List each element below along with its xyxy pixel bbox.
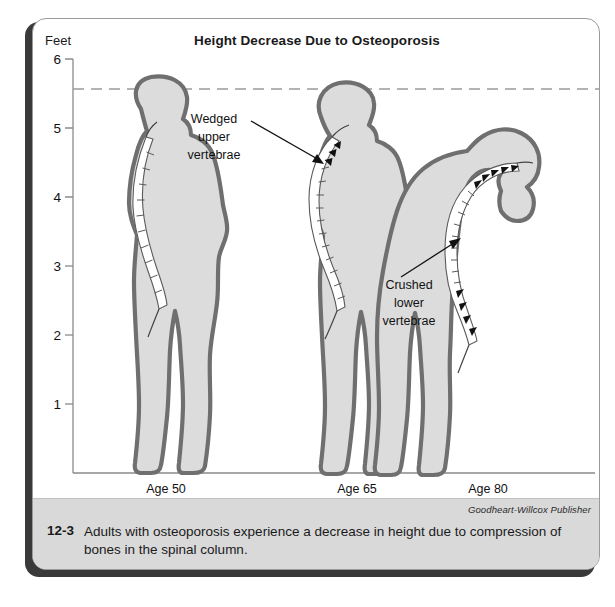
y-tick-5: 5 <box>53 121 61 136</box>
annotation-1-line-2: upper <box>198 130 230 144</box>
chart-area: Feet Height Decrease Due to Osteoporosis… <box>33 19 600 501</box>
y-tick-3: 3 <box>53 259 61 274</box>
figure-3-age-label: Age 80 <box>468 482 508 496</box>
figure-2-age-label: Age 65 <box>337 482 377 496</box>
figure-root: Feet Height Decrease Due to Osteoporosis… <box>0 0 615 607</box>
publisher-credit: Goodheart-Willcox Publisher <box>468 504 591 515</box>
y-axis <box>65 59 73 473</box>
annotation-1-line-3: vertebrae <box>188 148 241 162</box>
caption-row: 12-3 Adults with osteoporosis experience… <box>47 523 587 559</box>
annotation-1-leader-line <box>251 121 321 161</box>
annotation-2-line-1: Crushed <box>385 278 432 292</box>
y-tick-1: 1 <box>53 397 61 412</box>
y-tick-2: 2 <box>53 328 61 343</box>
spine-bottom-tail-age-80 <box>458 345 469 373</box>
y-tick-6: 6 <box>53 52 61 67</box>
figure-number: 12-3 <box>47 523 74 559</box>
annotation-1-line-1: Wedged <box>191 112 237 126</box>
y-axis-tick-labels: 6 5 4 3 2 1 <box>53 52 61 412</box>
figure-1-age-label: Age 50 <box>146 482 186 496</box>
annotation-2-line-3: vertebrae <box>383 314 436 328</box>
annotation-2-line-2: lower <box>394 296 424 310</box>
figure-caption-text: Adults with osteoporosis experience a de… <box>84 523 587 559</box>
annotation-wedged-upper-vertebrae: Wedged upper vertebrae <box>188 112 324 164</box>
y-tick-4: 4 <box>53 190 61 205</box>
caption-band: Goodheart-Willcox Publisher 12-3 Adults … <box>33 498 600 569</box>
figure-card: Feet Height Decrease Due to Osteoporosis… <box>32 18 600 570</box>
osteoporosis-plot: 6 5 4 3 2 1 <box>33 19 600 501</box>
